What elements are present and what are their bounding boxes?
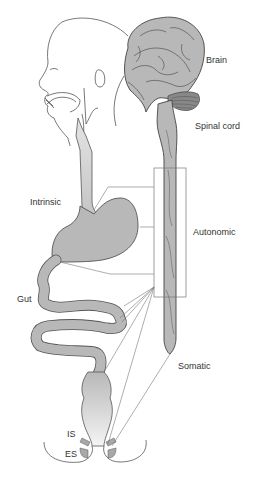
innervation-diagram: Brain Spinal cord Intrinsic Autonomic Gu… (0, 0, 259, 478)
spinal-cord (157, 100, 177, 354)
label-internal-sphincter: IS (67, 430, 76, 439)
esophagus (76, 118, 98, 218)
intestine (36, 260, 121, 378)
stomach (52, 198, 138, 263)
diagram-canvas (0, 0, 259, 478)
label-external-sphincter: ES (65, 450, 77, 459)
external-sphincter-right (108, 448, 116, 458)
internal-sphincter-left (80, 438, 90, 446)
label-autonomic: Autonomic (193, 228, 236, 237)
label-brain: Brain (206, 56, 227, 65)
brain (125, 17, 205, 112)
label-intrinsic: Intrinsic (30, 198, 61, 207)
rectum (82, 372, 113, 446)
label-somatic: Somatic (178, 362, 211, 371)
external-sphincter-left (80, 448, 88, 458)
label-gut: Gut (17, 295, 32, 304)
label-spinal-cord: Spinal cord (195, 122, 240, 131)
